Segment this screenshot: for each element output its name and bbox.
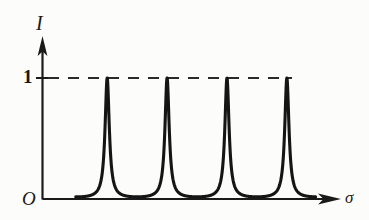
intensity-curve — [76, 78, 316, 197]
interference-intensity-figure: I O σ 1 — [0, 0, 369, 220]
y-axis-label: I — [36, 13, 43, 33]
y-tick-label-one: 1 — [23, 67, 33, 86]
x-axis-label: σ — [345, 189, 353, 206]
plot-canvas — [0, 0, 369, 220]
origin-label: O — [22, 189, 36, 208]
